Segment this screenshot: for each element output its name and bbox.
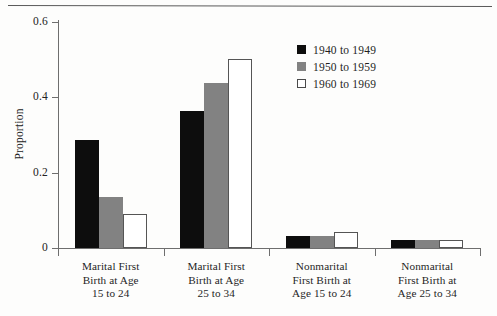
x-axis-category-label-line: Marital First: [164, 260, 270, 274]
legend-swatch-icon: [297, 62, 306, 71]
bar: [310, 236, 334, 248]
page-top-rule: [8, 5, 492, 7]
y-axis-tick-label: 0: [2, 242, 48, 254]
legend-swatch-icon: [297, 79, 306, 88]
y-axis-tick-label-wrap: 0: [0, 242, 48, 254]
x-axis-category-label-line: 15 to 24: [58, 287, 164, 301]
x-axis-tick: [58, 249, 59, 256]
x-axis-category-label: Marital FirstBirth at Age25 to 34: [164, 260, 270, 301]
bar: [439, 240, 463, 248]
bar: [180, 111, 204, 248]
x-axis-tick: [269, 249, 270, 256]
x-axis-tick: [480, 249, 481, 256]
x-axis-category-label-line: First Birth at: [375, 274, 481, 288]
legend-item: 1960 to 1969: [297, 76, 427, 91]
x-axis-tick: [375, 249, 376, 256]
x-axis-category-label: NonmaritalFirst Birth atAge 15 to 24: [269, 260, 375, 301]
x-axis-category-label-line: Age 25 to 34: [375, 287, 481, 301]
legend-swatch-icon: [297, 45, 306, 54]
bar: [123, 214, 147, 248]
legend-item-label: 1960 to 1969: [313, 78, 376, 90]
bar-chart-figure: 00.20.40.6 Proportion Marital FirstBirth…: [0, 0, 497, 316]
y-axis-tick-label: 0.2: [2, 167, 48, 179]
x-axis-category-label-line: Age 15 to 24: [269, 287, 375, 301]
legend-item-label: 1950 to 1959: [313, 61, 376, 73]
bar: [391, 240, 415, 248]
y-axis-title: Proportion: [13, 79, 25, 189]
bar: [415, 240, 439, 248]
bar: [228, 59, 252, 248]
y-axis-tick-label: 0.4: [2, 91, 48, 103]
x-axis-category-label: Marital FirstBirth at Age15 to 24: [58, 260, 164, 301]
x-axis-category-label-line: First Birth at: [269, 274, 375, 288]
y-axis-tick-label: 0.6: [2, 16, 48, 28]
bar: [334, 232, 358, 248]
x-axis-category-label-line: Nonmarital: [375, 260, 481, 274]
bar: [204, 83, 228, 248]
x-axis-category-label-line: Marital First: [58, 260, 164, 274]
legend-item: 1950 to 1959: [297, 59, 427, 74]
legend-item-label: 1940 to 1949: [313, 44, 376, 56]
bar: [99, 197, 123, 248]
chart-legend: 1940 to 19491950 to 19591960 to 1969: [297, 42, 427, 93]
bar: [75, 140, 99, 248]
x-axis-category-label: NonmaritalFirst Birth atAge 25 to 34: [375, 260, 481, 301]
x-axis-category-label-line: Nonmarital: [269, 260, 375, 274]
x-axis-category-label-line: 25 to 34: [164, 287, 270, 301]
x-axis-tick: [164, 249, 165, 256]
y-axis-tick-label-wrap: 0.6: [0, 16, 48, 28]
x-axis-category-label-line: Birth at Age: [164, 274, 270, 288]
legend-item: 1940 to 1949: [297, 42, 427, 57]
x-axis-category-label-line: Birth at Age: [58, 274, 164, 288]
bar: [286, 236, 310, 248]
